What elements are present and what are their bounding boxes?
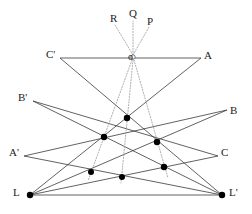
label-B: B: [230, 105, 237, 116]
label-C: C: [221, 147, 228, 158]
dotted-o-to-P: [133, 27, 149, 55]
diagram-canvas: [0, 0, 252, 214]
point-markers-group: [27, 115, 225, 198]
label-o: o: [128, 52, 133, 62]
point-left-mid: [101, 134, 107, 140]
label-A-prime: A': [9, 147, 19, 158]
label-L: L: [13, 187, 20, 198]
dotted-pencil-from-o-group: [88, 21, 168, 183]
label-Q: Q: [129, 8, 137, 19]
point-right-mid: [154, 139, 160, 145]
line-L-to-right-mid-extended: [30, 58, 201, 195]
label-L-prime: L': [229, 187, 238, 198]
point-lower-right: [161, 164, 167, 170]
transversal-lines-group: [24, 58, 227, 156]
label-C-prime: C': [46, 49, 55, 60]
point-bottom-center: [119, 174, 125, 180]
dotted-o-to-lower-right: [134, 60, 168, 178]
geometry-figure: o P Q R A B C A' B' C' L L': [0, 0, 252, 214]
label-A: A: [204, 50, 212, 61]
point-top-center: [124, 115, 130, 121]
dotted-o-to-bottom-center: [121, 60, 133, 183]
point-lower-left: [88, 169, 94, 175]
line-L-to-bottom-center: [30, 110, 227, 195]
label-R: R: [110, 13, 117, 24]
point-L-prime: [219, 192, 225, 198]
label-P: P: [147, 16, 153, 27]
point-L: [27, 192, 33, 198]
label-B-prime: B': [18, 92, 27, 103]
